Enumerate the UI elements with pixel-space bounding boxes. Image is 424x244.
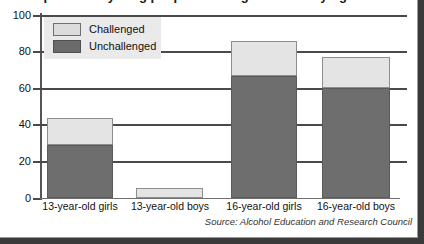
y-axis-label-60: 60 [1,83,31,94]
bar-segment-challenged [47,118,113,145]
y-tick-20 [33,161,40,163]
y-tick-right-40 [400,124,407,126]
y-axis-line [40,13,42,200]
chart-figure: Proportion of young people challenged wh… [0,0,424,244]
y-tick-right-80 [400,51,407,53]
legend-label-unchallenged: Unchallenged [89,40,156,53]
bar-13-year-old-boys [136,188,203,198]
bar-13-year-old-girls [47,118,113,198]
bar-segment-unchallenged [322,88,390,198]
y-tick-100 [33,15,40,17]
y-axis-label-20: 20 [1,156,31,167]
legend-swatch-challenged [53,23,81,36]
bar-16-year-old-girls [231,41,297,198]
legend-label-challenged: Challenged [89,23,145,36]
y-axis-label-0: 0 [1,193,31,204]
chart-legend: Challenged Unchallenged [44,17,161,59]
page-title: Proportion of young people challenged wh… [0,0,418,3]
legend-swatch-unchallenged [53,40,81,53]
y-tick-right-100 [400,15,407,17]
source-note: Source: Alcohol Education and Research C… [205,216,412,227]
y-tick-right-20 [400,161,407,163]
x-axis-label-3: 16-year-old boys [312,201,400,212]
x-axis-label-1: 13-year-old boys [126,201,214,212]
y-tick-0 [33,198,40,200]
bar-16-year-old-boys [322,57,390,198]
bar-segment-challenged [322,57,390,88]
bar-segment-unchallenged [231,76,297,198]
gridline-0 [40,198,400,199]
frame-right-rule [418,0,424,244]
y-tick-40 [33,124,40,126]
frame-bottom-rule [0,238,424,244]
y-tick-80 [33,51,40,53]
y-tick-right-60 [400,88,407,90]
x-axis-label-0: 13-year-old girls [36,201,124,212]
y-axis-label-80: 80 [1,46,31,57]
bar-segment-unchallenged [47,145,113,198]
chart-title-clipped: Proportion of young people challenged wh… [0,0,418,9]
y-tick-60 [33,88,40,90]
bar-segment-challenged [136,188,203,198]
x-axis-label-2: 16-year-old girls [220,201,308,212]
y-axis-label-100: 100 [1,10,31,21]
y-axis-label-40: 40 [1,119,31,130]
bar-segment-challenged [231,41,297,76]
